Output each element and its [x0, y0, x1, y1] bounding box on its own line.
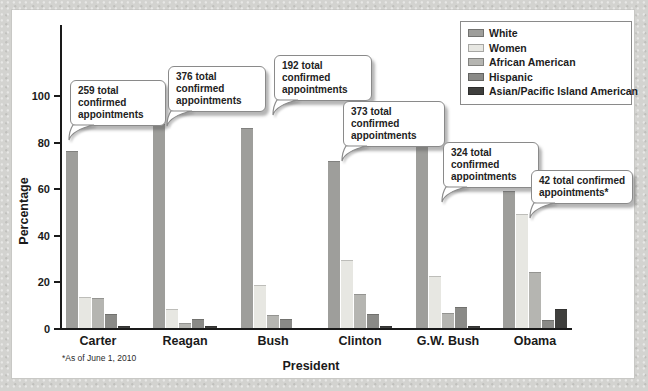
callout-clinton: 373 total confirmed appointments: [343, 101, 445, 147]
y-tick-mark: [54, 95, 60, 97]
bar-women: [516, 214, 528, 328]
y-tick-mark: [54, 281, 60, 283]
bar-asian-pacific-island-american: [468, 326, 480, 328]
bar-white: [503, 191, 515, 328]
y-tick-label: 0: [20, 323, 50, 335]
legend-label: Hispanic: [489, 71, 533, 83]
legend-label: White: [489, 27, 518, 39]
legend-item-white: White: [468, 27, 625, 39]
bar-hispanic: [192, 319, 204, 328]
y-tick-label: 100: [20, 90, 50, 102]
bar-african-american: [179, 323, 191, 328]
bar-women: [429, 276, 441, 328]
callout-bush: 192 total confirmed appointments: [274, 55, 372, 101]
category-label: Reagan: [140, 334, 230, 348]
bar-white: [66, 151, 78, 328]
category-label: Carter: [53, 334, 143, 348]
callout-tail: [529, 202, 557, 222]
legend-label: African American: [489, 56, 576, 68]
legend-item-hispanic: Hispanic: [468, 71, 625, 83]
legend-label: Asian/Pacific Island American: [489, 85, 638, 97]
legend-swatch-icon: [468, 73, 484, 81]
bar-white: [241, 128, 253, 328]
bar-asian-pacific-island-american: [205, 326, 217, 328]
callout-carter: 259 total confirmed appointments: [70, 80, 166, 126]
callout-tail: [166, 110, 194, 130]
bar-white: [328, 161, 340, 328]
legend-swatch-icon: [468, 29, 484, 37]
legend-swatch-icon: [468, 58, 484, 66]
callout-tail: [341, 145, 369, 165]
y-axis-title: Percentage: [17, 111, 31, 311]
callout-tail: [272, 99, 300, 119]
legend-swatch-icon: [468, 44, 484, 52]
x-axis-line: [60, 328, 572, 330]
legend-item-african-american: African American: [468, 56, 625, 68]
bar-asian-pacific-island-american: [380, 326, 392, 328]
x-axis-title: President: [271, 359, 351, 373]
callout-tail: [68, 124, 96, 144]
bar-african-american: [354, 294, 366, 328]
bar-white: [153, 124, 165, 328]
y-tick-mark: [54, 235, 60, 237]
bar-asian-pacific-island-american: [555, 309, 567, 328]
y-tick-mark: [54, 142, 60, 144]
legend-label: Women: [489, 42, 527, 54]
bar-women: [166, 309, 178, 328]
bar-women: [254, 285, 266, 328]
bar-hispanic: [542, 320, 554, 328]
footnote: *As of June 1, 2010: [62, 353, 136, 363]
bar-white: [416, 140, 428, 328]
y-tick-mark: [54, 188, 60, 190]
bar-women: [341, 260, 353, 328]
callout-g-w-bush: 324 total confirmed appointments: [443, 142, 539, 188]
legend-swatch-icon: [468, 87, 484, 95]
legend-item-asian-pacific-island-american: Asian/Pacific Island American: [468, 85, 625, 97]
chart-panel: 020406080100CarterReaganBushClintonG.W. …: [12, 10, 634, 378]
legend: WhiteWomenAfrican AmericanHispanicAsian/…: [460, 21, 632, 105]
category-label: G.W. Bush: [403, 334, 493, 348]
callout-tail: [441, 186, 469, 206]
category-label: Clinton: [315, 334, 405, 348]
callout-obama: 42 total confirmed appointments*: [531, 170, 633, 204]
bar-african-american: [92, 298, 104, 328]
category-label: Obama: [490, 334, 580, 348]
y-tick-mark: [54, 328, 60, 330]
bar-african-american: [442, 313, 454, 328]
bar-women: [79, 297, 91, 328]
legend-item-women: Women: [468, 42, 625, 54]
y-axis-line: [60, 25, 62, 330]
bar-hispanic: [105, 314, 117, 328]
callout-reagan: 376 total confirmed appointments: [168, 66, 266, 112]
category-label: Bush: [228, 334, 318, 348]
bar-hispanic: [367, 314, 379, 328]
bar-african-american: [267, 315, 279, 328]
bar-asian-pacific-island-american: [118, 326, 130, 328]
bar-hispanic: [280, 319, 292, 328]
bar-african-american: [529, 272, 541, 328]
bar-hispanic: [455, 307, 467, 328]
